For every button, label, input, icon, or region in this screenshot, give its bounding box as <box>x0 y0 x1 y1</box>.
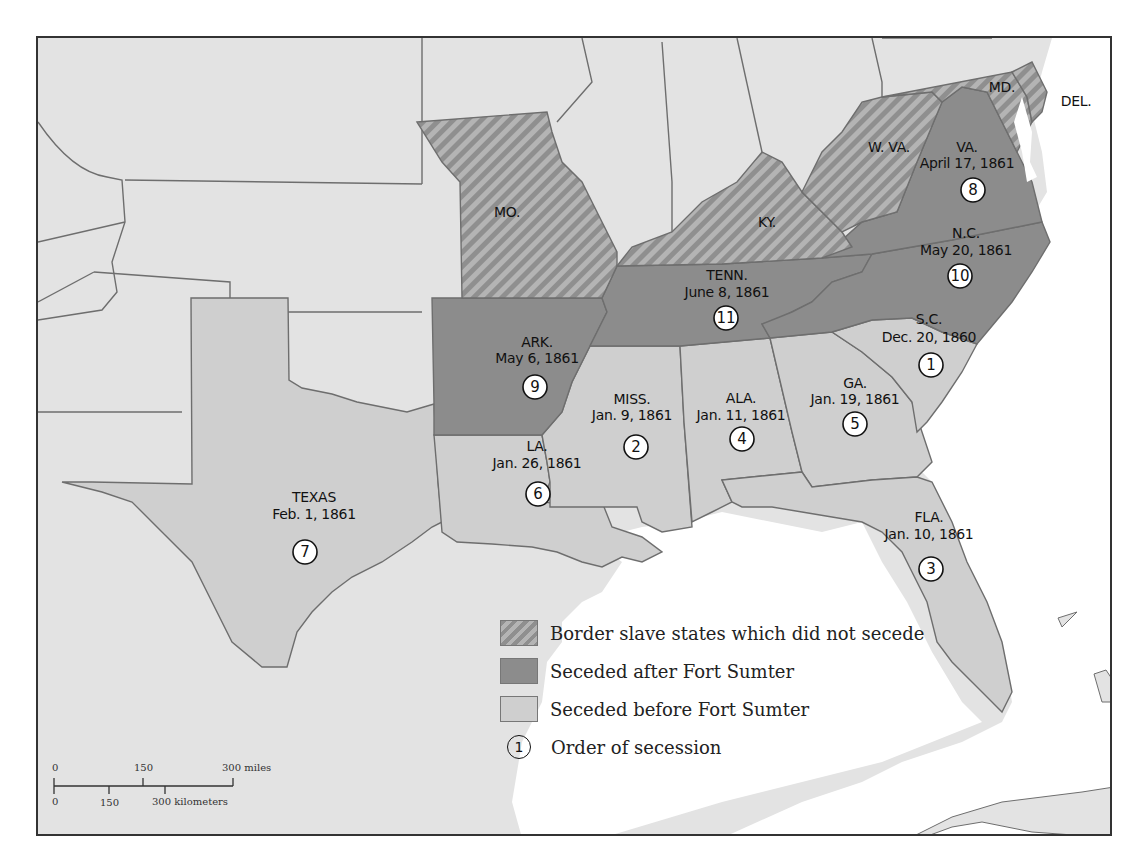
label-alabama: ALA. <box>726 390 756 406</box>
label-florida: FLA. <box>915 509 944 525</box>
legend-label: Seceded before Fort Sumter <box>550 699 809 720</box>
order-louisiana: 6 <box>533 485 543 503</box>
order-mississippi: 2 <box>631 438 641 456</box>
order-georgia: 5 <box>850 415 860 433</box>
date-virginia: April 17, 1861 <box>920 155 1015 171</box>
date-north-carolina: May 20, 1861 <box>920 242 1012 258</box>
date-tennessee: June 8, 1861 <box>684 284 770 300</box>
label-mississippi: MISS. <box>614 391 651 407</box>
legend-item-seceded-before: Seceded before Fort Sumter <box>500 690 924 728</box>
scale-miles-0: 0 <box>52 762 58 773</box>
label-arkansas: ARK. <box>521 334 553 350</box>
date-florida: Jan. 10, 1861 <box>884 526 974 542</box>
label-kentucky: KY. <box>758 214 776 230</box>
scale-bar-line <box>52 776 252 796</box>
order-arkansas: 9 <box>530 378 540 396</box>
order-alabama: 4 <box>737 430 747 448</box>
order-florida: 3 <box>926 560 936 578</box>
date-louisiana: Jan. 26, 1861 <box>492 455 582 471</box>
label-south-carolina: S.C. <box>916 311 942 327</box>
hatched-swatch-icon <box>500 620 538 646</box>
label-tennessee: TENN. <box>705 267 747 283</box>
label-texas: TEXAS <box>291 489 336 505</box>
label-maryland: MD. <box>989 79 1015 95</box>
legend-label: Border slave states which did not secede <box>550 623 924 644</box>
date-mississippi: Jan. 9, 1861 <box>591 407 672 423</box>
label-virginia: VA. <box>956 139 978 155</box>
label-missouri: MO. <box>494 204 520 220</box>
date-alabama: Jan. 11, 1861 <box>696 407 786 423</box>
order-south-carolina: 1 <box>926 356 936 374</box>
label-louisiana: LA. <box>526 438 547 454</box>
order-north-carolina: 10 <box>950 267 969 285</box>
label-north-carolina: N.C. <box>952 225 980 241</box>
legend-item-seceded-after: Seceded after Fort Sumter <box>500 652 924 690</box>
label-west-virginia: W. VA. <box>868 139 910 155</box>
legend-label: Seceded after Fort Sumter <box>550 661 794 682</box>
date-arkansas: May 6, 1861 <box>495 350 579 366</box>
legend: Border slave states which did not secede… <box>500 614 924 766</box>
scale-km-0: 0 <box>52 796 58 807</box>
light-swatch-icon <box>500 696 538 722</box>
date-south-carolina: Dec. 20, 1860 <box>882 329 976 345</box>
label-georgia: GA. <box>843 375 867 391</box>
legend-item-border-states: Border slave states which did not secede <box>500 614 924 652</box>
scale-bar: 0 150 300 miles 0 150 300 kilometers <box>52 762 372 822</box>
order-virginia: 8 <box>968 181 978 199</box>
dark-swatch-icon <box>500 658 538 684</box>
legend-label: Order of secession <box>551 737 721 758</box>
order-circle-icon: 1 <box>507 735 531 759</box>
order-tennessee: 11 <box>716 309 735 327</box>
scale-km-150: 150 <box>100 797 119 808</box>
scale-km-300: 300 kilometers <box>152 796 228 807</box>
date-georgia: Jan. 19, 1861 <box>810 391 900 407</box>
order-texas: 7 <box>300 543 310 561</box>
legend-item-order: 1 Order of secession <box>500 728 924 766</box>
secession-map: MO. KY. W. VA. MD. DEL. VA. April 17, 18… <box>36 36 1112 836</box>
label-delaware: DEL. <box>1061 93 1092 109</box>
date-texas: Feb. 1, 1861 <box>272 506 356 522</box>
scale-miles-150: 150 <box>134 762 153 773</box>
scale-miles-300: 300 miles <box>222 762 271 773</box>
